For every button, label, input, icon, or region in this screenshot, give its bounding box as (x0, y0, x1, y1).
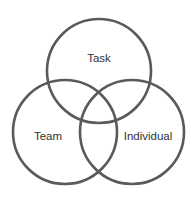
team-label: Team (34, 130, 62, 142)
individual-label: Individual (124, 130, 173, 142)
task-circle (47, 19, 151, 123)
team-circle (13, 80, 117, 184)
venn-diagram: Task Team Individual (0, 0, 196, 197)
task-label: Task (87, 52, 111, 64)
